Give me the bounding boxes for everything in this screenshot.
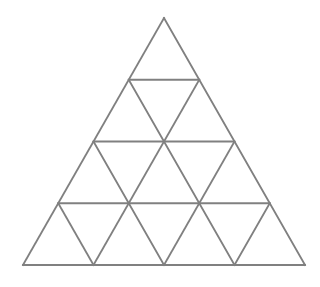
grid-line-left-parallel-3 xyxy=(235,203,270,265)
grid-line-left-parallel-1 xyxy=(94,80,200,265)
horizontal-lines-group xyxy=(23,80,305,265)
grid-line-right-parallel-3 xyxy=(58,203,93,265)
grid-line-right-parallel-1 xyxy=(129,80,235,265)
figure-canvas xyxy=(0,0,320,287)
triangular-grid-figure xyxy=(0,0,320,287)
